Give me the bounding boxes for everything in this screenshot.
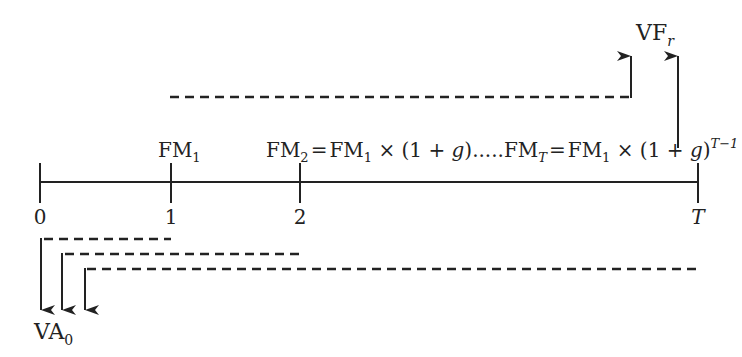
tick-label-0: 0 <box>34 205 47 229</box>
present-value-flows <box>41 238 698 310</box>
future-value-label: VFr <box>635 20 675 49</box>
growth-formula: FM2=FM1 × (1 + g).....FMT=FM1 × (1 + g)T… <box>266 136 738 165</box>
cash-flow-diagram: 0 1 2 T FM1 FM2=FM1 × (1 + g).....FMT=FM… <box>0 0 742 357</box>
tick-label-2: 2 <box>294 205 307 229</box>
future-value-flows <box>170 56 678 148</box>
present-value-label: VA0 <box>33 319 73 348</box>
timeline-axis <box>40 163 698 203</box>
tick-label-T: T <box>691 205 706 229</box>
tick-label-1: 1 <box>165 205 178 229</box>
fm1-label: FM1 <box>158 138 201 165</box>
